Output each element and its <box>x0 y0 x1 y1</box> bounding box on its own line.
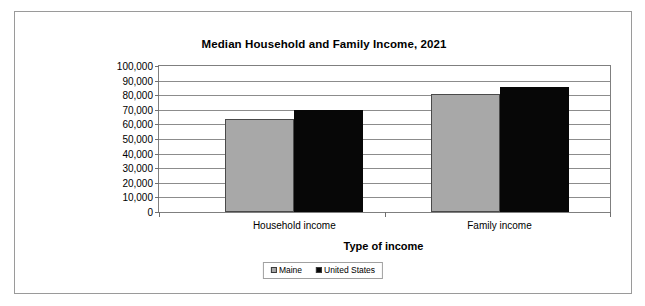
x-axis-tick-mark <box>159 212 160 217</box>
plot-area: 010,00020,00030,00040,00050,00060,00070,… <box>158 65 611 213</box>
chart-screenshot: Median Household and Family Income, 2021… <box>0 0 645 306</box>
chart-title: Median Household and Family Income, 2021 <box>15 38 633 50</box>
y-axis-tick-label: 30,000 <box>122 163 153 174</box>
y-axis-tick-mark <box>155 110 159 111</box>
y-axis-tick-label: 50,000 <box>122 134 153 145</box>
legend-label: Maine <box>279 265 302 275</box>
y-axis-tick-mark <box>155 197 159 198</box>
legend-swatch-icon <box>271 267 277 273</box>
legend-label: United States <box>324 265 375 275</box>
gridline <box>159 81 610 82</box>
y-axis-tick-mark <box>155 66 159 67</box>
x-axis-tick-mark <box>610 212 611 217</box>
y-axis-tick-mark <box>155 139 159 140</box>
legend-swatch-icon <box>316 267 322 273</box>
y-axis-tick-label: 100,000 <box>117 61 153 72</box>
x-axis-title: Type of income <box>158 240 609 252</box>
y-axis-tick-mark <box>155 81 159 82</box>
y-axis-tick-label: 0 <box>147 207 153 218</box>
x-axis-category-label: Household income <box>253 220 336 231</box>
y-axis-tick-label: 20,000 <box>122 177 153 188</box>
y-axis-tick-mark <box>155 168 159 169</box>
chart-frame: Median Household and Family Income, 2021… <box>14 11 632 294</box>
bar-maine-family-income <box>431 94 500 212</box>
bar-united-states-family-income <box>500 87 569 212</box>
y-axis-tick-mark <box>155 95 159 96</box>
y-axis-tick-label: 10,000 <box>122 192 153 203</box>
x-axis-tick-mark <box>385 212 386 217</box>
y-axis-tick-label: 90,000 <box>122 75 153 86</box>
legend-item-united-states: United States <box>316 265 375 275</box>
x-axis-category-label: Family income <box>467 220 531 231</box>
y-axis-tick-mark <box>155 154 159 155</box>
y-axis-tick-label: 40,000 <box>122 148 153 159</box>
y-axis-tick-mark <box>155 183 159 184</box>
legend-item-maine: Maine <box>271 265 302 275</box>
y-axis-tick-label: 70,000 <box>122 104 153 115</box>
chart-legend: MaineUnited States <box>263 262 383 279</box>
y-axis-tick-mark <box>155 124 159 125</box>
y-axis-tick-label: 60,000 <box>122 119 153 130</box>
y-axis-tick-label: 80,000 <box>122 90 153 101</box>
bar-maine-household-income <box>225 119 294 212</box>
bar-united-states-household-income <box>294 110 363 212</box>
